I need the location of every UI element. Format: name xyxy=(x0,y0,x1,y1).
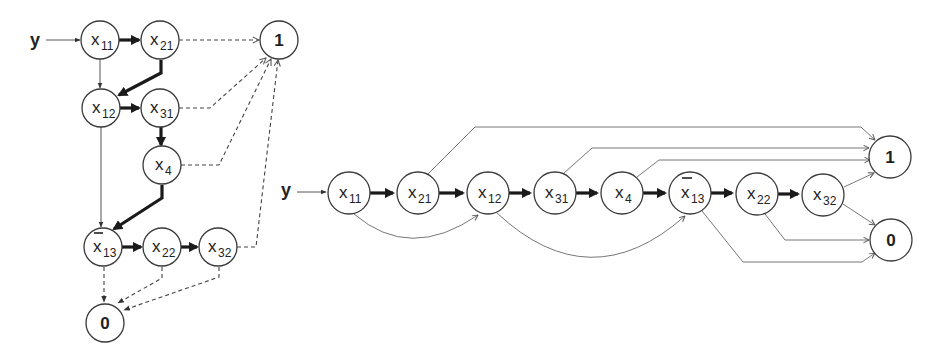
edge-x32-zero xyxy=(843,204,875,225)
node-var: x xyxy=(150,30,159,49)
node-var: x xyxy=(615,183,624,202)
node-sub: 31 xyxy=(555,192,569,206)
node-sub: 12 xyxy=(102,107,116,121)
edge-x32-one xyxy=(844,173,874,187)
node-var: x xyxy=(152,237,161,256)
node-sub: 22 xyxy=(757,193,771,207)
terminal-zero: 0 xyxy=(86,304,124,342)
terminal-label: 0 xyxy=(100,314,109,333)
edge-x31-one xyxy=(179,58,266,108)
node-x22: x 22 xyxy=(736,173,778,215)
node-var: x xyxy=(545,183,554,202)
node-x4: x 4 xyxy=(601,172,643,214)
node-var: x xyxy=(478,183,487,202)
terminal-label: 0 xyxy=(886,231,895,250)
node-x12: x 12 xyxy=(467,172,509,214)
node-x13-negated: x 13 xyxy=(669,172,711,214)
terminal-one: 1 xyxy=(260,21,298,59)
node-x32: x 32 xyxy=(802,174,844,216)
input-label-y: y xyxy=(281,180,291,200)
edge-x4-one xyxy=(181,59,271,165)
right-nodes: x 11 x 21 x 12 x 31 x 4 xyxy=(328,136,912,261)
edge-x12-x13-curved xyxy=(497,213,685,257)
node-x22: x 22 xyxy=(143,228,181,266)
edge-x13-zero xyxy=(702,211,875,262)
edge-x22-zero xyxy=(118,267,162,303)
node-var: x xyxy=(408,183,417,202)
edge-x21-one xyxy=(428,127,875,174)
terminal-label: 1 xyxy=(885,148,894,167)
node-x21: x 21 xyxy=(397,172,439,214)
node-x11: x 11 xyxy=(328,172,370,214)
node-x4: x 4 xyxy=(143,146,181,184)
edge-x11-x12-curved xyxy=(354,214,478,238)
node-sub: 21 xyxy=(160,39,174,53)
node-var: x xyxy=(92,98,101,117)
node-sub: 32 xyxy=(218,246,232,260)
left-bdd: y xyxy=(30,21,298,342)
node-var: x xyxy=(747,184,756,203)
node-x32: x 32 xyxy=(199,228,237,266)
node-var: x xyxy=(155,155,164,174)
node-sub: 13 xyxy=(691,192,705,206)
edge-x31-one xyxy=(563,148,869,174)
node-sub: 11 xyxy=(101,39,114,53)
right-bdd: y x 11 xyxy=(281,127,912,262)
node-var: x xyxy=(681,183,690,202)
node-x31: x 31 xyxy=(141,89,179,127)
node-x11: x 11 xyxy=(81,21,119,59)
node-sub: 22 xyxy=(162,246,176,260)
edge-x4-x13 xyxy=(114,185,162,229)
bdd-diagram-canvas: y xyxy=(0,0,952,360)
terminal-zero: 0 xyxy=(870,219,912,261)
node-var: x xyxy=(813,185,822,204)
edge-x32-one xyxy=(237,60,278,247)
node-var: x xyxy=(339,183,348,202)
node-var: x xyxy=(208,237,217,256)
node-x12: x 12 xyxy=(82,89,120,127)
left-nodes: x 11 x 21 x 12 x 31 x 4 xyxy=(81,21,298,342)
node-x21: x 21 xyxy=(141,21,179,59)
node-x13-negated: x 13 xyxy=(84,228,122,266)
node-sub: 4 xyxy=(625,192,632,206)
node-sub: 12 xyxy=(488,192,502,206)
node-var: x xyxy=(93,237,102,256)
node-sub: 11 xyxy=(349,192,362,206)
node-x31: x 31 xyxy=(534,172,576,214)
right-edges xyxy=(297,127,875,262)
node-sub: 13 xyxy=(103,246,117,260)
node-sub: 31 xyxy=(160,107,174,121)
node-var: x xyxy=(150,98,159,117)
node-sub: 4 xyxy=(165,164,172,178)
node-sub: 32 xyxy=(823,194,837,208)
edge-x22-zero xyxy=(765,214,869,240)
node-sub: 21 xyxy=(418,192,432,206)
terminal-label: 1 xyxy=(274,31,283,50)
terminal-one: 1 xyxy=(869,136,911,178)
edge-x32-zero xyxy=(124,267,219,310)
input-label-y: y xyxy=(30,30,40,50)
node-var: x xyxy=(91,30,100,49)
